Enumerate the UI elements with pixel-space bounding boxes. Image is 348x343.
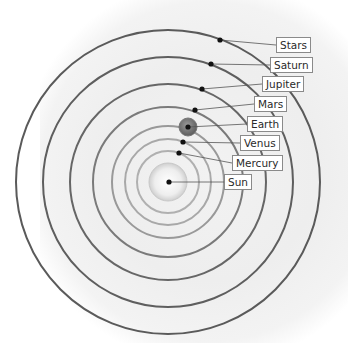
body-dot [199,86,204,91]
body-dot [180,139,185,144]
label-stars: Stars [276,37,311,53]
body-dot [208,61,213,66]
leader-line [202,84,262,89]
label-sun: Sun [224,174,252,190]
label-saturn: Saturn [270,57,313,73]
body-dot [192,107,197,112]
label-jupiter: Jupiter [262,76,304,92]
body-dot [217,37,222,42]
label-mars: Mars [254,96,287,112]
label-venus: Venus [240,135,280,151]
geocentric-diagram: Stars Saturn Jupiter Mars Earth Venus Me… [0,0,348,343]
body-dot [185,124,190,129]
leader-line [211,64,270,65]
body-dot [166,179,171,184]
body-dot [176,150,181,155]
label-earth: Earth [247,116,283,132]
label-mercury: Mercury [232,155,283,171]
leader-line [195,104,254,110]
